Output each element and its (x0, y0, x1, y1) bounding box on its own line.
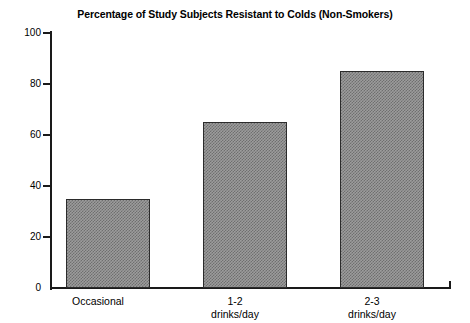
y-axis-label-100-wrap: 100 (0, 28, 41, 38)
chart-title: Percentage of Study Subjects Resistant t… (0, 8, 470, 21)
y-axis-label-0: 0 (3, 283, 41, 293)
x-axis-label-1-2-drinks-day: 1-2 drinks/day (173, 295, 297, 321)
y-axis-label-0-wrap: 0 (0, 283, 41, 293)
y-axis-tick-80 (43, 83, 50, 85)
y-axis-label-80: 80 (3, 79, 41, 89)
x-axis-label-2-3-line2: drinks/day (310, 308, 434, 321)
bar-2-3-drinks-day (340, 71, 424, 288)
y-axis-label-20-wrap: 20 (0, 232, 41, 242)
y-axis-label-100: 100 (3, 28, 41, 38)
y-axis-label-40: 40 (3, 181, 41, 191)
y-axis-tick-20 (43, 236, 50, 238)
y-axis-label-60-wrap: 60 (0, 130, 41, 140)
y-axis-label-80-wrap: 80 (0, 79, 41, 89)
y-axis-tick-40 (43, 185, 50, 187)
bar-occasional (66, 199, 150, 288)
bar-chart-figure: Percentage of Study Subjects Resistant t… (0, 0, 470, 323)
y-axis-label-60: 60 (3, 130, 41, 140)
plot-area (50, 33, 450, 288)
y-axis-tick-60 (43, 134, 50, 136)
x-axis-label-1-2-line1: 1-2 (227, 295, 242, 307)
x-axis-label-2-3-line1: 2-3 (364, 295, 379, 307)
x-axis-label-occasional-line1: Occasional (72, 295, 124, 307)
x-axis-label-1-2-line2: drinks/day (173, 308, 297, 321)
bar-1-2-drinks-day (203, 122, 287, 288)
x-axis-label-occasional: Occasional (36, 295, 160, 308)
x-axis-label-2-3-drinks-day: 2-3 drinks/day (310, 295, 434, 321)
y-axis-label-40-wrap: 40 (0, 181, 41, 191)
y-axis-label-20: 20 (3, 232, 41, 242)
